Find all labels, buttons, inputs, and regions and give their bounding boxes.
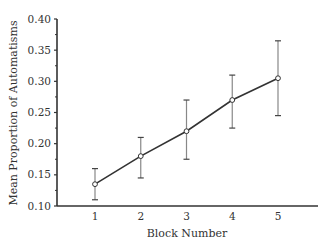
y-tick-label: 0.10 xyxy=(28,200,51,212)
x-tick-label: 5 xyxy=(275,210,282,222)
y-axis-title: Mean Proportion of Automatisms xyxy=(7,20,20,206)
data-point-marker xyxy=(276,76,281,81)
y-axis-ticks: 0.100.150.200.250.300.350.40 xyxy=(28,13,57,212)
y-tick-label: 0.25 xyxy=(28,106,51,118)
data-point-marker xyxy=(230,98,235,103)
data-point-marker xyxy=(93,182,98,187)
error-bars xyxy=(92,41,281,200)
x-tick-label: 4 xyxy=(229,210,236,222)
y-tick-label: 0.40 xyxy=(28,13,51,25)
data-point-marker xyxy=(184,129,189,134)
y-tick-label: 0.35 xyxy=(28,44,51,56)
y-tick-label: 0.20 xyxy=(28,137,51,149)
x-tick-label: 3 xyxy=(183,210,190,222)
x-tick-label: 1 xyxy=(92,210,99,222)
data-point-marker xyxy=(138,154,143,159)
y-tick-label: 0.30 xyxy=(28,75,51,87)
x-tick-label: 2 xyxy=(137,210,144,222)
y-tick-label: 0.15 xyxy=(28,168,51,180)
line-chart: 0.100.150.200.250.300.350.40 12345 Block… xyxy=(0,0,333,247)
x-axis-ticks: 12345 xyxy=(92,210,282,222)
x-axis-title: Block Number xyxy=(147,227,228,240)
data-markers xyxy=(93,76,281,187)
